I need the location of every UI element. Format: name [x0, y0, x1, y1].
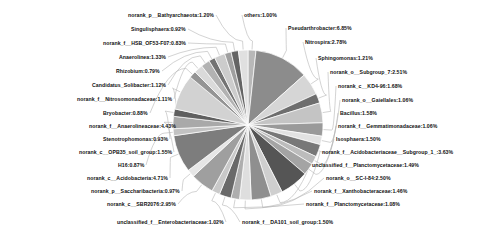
pie-slice-label: norank_c__OPB35_soil_group:1.55% — [79, 149, 172, 156]
pie-chart-figure: others:1.00%Pseudarthrobacter:6.85%Nitro… — [0, 0, 497, 248]
pie-slice-label: others:1.00% — [244, 12, 277, 19]
pie-slice-label: Bryobacter:0.88% — [103, 110, 148, 117]
pie-slice-label: unclassified_f__Enterobacteriaceae:1.02% — [117, 219, 224, 226]
pie-slice-label: norank_f__HSB_OF53-F07:0.83% — [103, 40, 186, 47]
pie-slice-label: Bacillus:1.58% — [340, 110, 377, 117]
pie-slice-label: Pseudarthrobacter:6.85% — [288, 25, 352, 32]
label-leader-line — [316, 58, 326, 98]
pie-slice-label: norank_p__Saccharibacteria:0.97% — [91, 188, 180, 195]
pie-slice-label: norank_o__Gaiellales:1.06% — [342, 97, 413, 104]
pie-slice-label: norank_f__Nitrosomonadaceae:1.11% — [77, 96, 172, 103]
pie-slice-label: norank_f__Planctomycetaceae:1.08% — [306, 201, 400, 208]
pie-slice-label: Sphingomonas:1.21% — [318, 55, 373, 62]
pie-slice-label: Candidatus_Solibacter:1.12% — [92, 82, 166, 89]
pie-slice-label: norank_f__Acidobacteriaceae__Subgroup_1_… — [322, 149, 453, 156]
pie-slice-label: Singulisphaera:0.92% — [131, 26, 186, 33]
pie-slice-label: H16:0.87% — [118, 162, 144, 169]
pie-slice-label: norank_c__KD4-96:1.68% — [338, 83, 402, 90]
pie-slice-label: norank_p__Bathyarchaeota:1.20% — [128, 12, 214, 19]
pie-slice-label: norank_f__DA101_soil_group:1.50% — [242, 219, 333, 226]
pie-slice-label: norank_f__Xanthobacteraceae:1.46% — [314, 188, 407, 195]
label-leader-line — [182, 174, 190, 191]
label-leader-line — [178, 185, 202, 204]
pie-slice-label: Nitrospira:2.78% — [305, 39, 347, 46]
pie-slice-label: Stenotrophomonas:0.93% — [103, 136, 168, 143]
pie-slice-label: unclassified_f__Planctomycetaceae:1.49% — [312, 162, 419, 169]
pie-slice-label: norank_o__Subgroup_7:2.51% — [330, 69, 407, 76]
label-leader-line — [283, 28, 287, 58]
pie-slice-label: Isosphaera:1.50% — [336, 136, 381, 143]
pie-slices-group — [173, 50, 323, 200]
pie-slice-label: norank_o__SC-I-84:2.50% — [326, 175, 391, 182]
pie-slice-label: Anaerolinea:1.33% — [119, 54, 166, 61]
label-leader-line — [170, 154, 178, 178]
pie-slice-label: Rhizobium:0.79% — [116, 68, 160, 75]
pie-slice-label: norank_c__Acidobacteria:4.71% — [87, 175, 168, 182]
label-leader-line — [242, 15, 253, 50]
pie-slice-label: norank_f__Anaerolineaceae:4.43% — [89, 123, 176, 130]
label-leader-line — [323, 86, 336, 130]
label-leader-line — [168, 47, 219, 57]
pie-slice-label: norank_c__SBR2076:2.95% — [107, 201, 176, 208]
pie-slice-label: norank_f__Gemmatimonadaceae:1.06% — [338, 123, 437, 130]
label-leader-line — [216, 15, 243, 50]
